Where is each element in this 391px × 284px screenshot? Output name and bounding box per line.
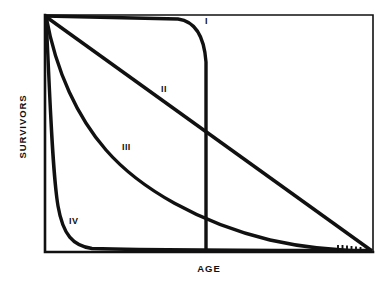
survivorship-curve-figure: I II III IV SURVIVORS AGE <box>0 0 391 284</box>
y-axis-title: SURVIVORS <box>17 79 28 175</box>
curve-label-four: IV <box>69 216 78 226</box>
curve-label-three: III <box>122 142 131 152</box>
curve-label-two: II <box>161 84 167 94</box>
curve-label-one: I <box>205 16 208 26</box>
x-axis-title: AGE <box>45 263 373 274</box>
chart-canvas <box>0 0 391 284</box>
